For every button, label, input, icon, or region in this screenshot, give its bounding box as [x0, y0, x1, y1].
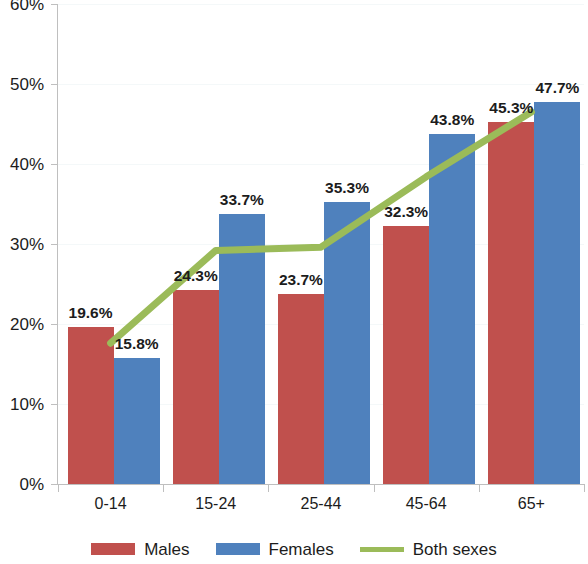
legend-label: Females	[269, 541, 334, 558]
y-axis-tick	[51, 484, 58, 485]
x-axis-tick-label: 65+	[479, 496, 584, 512]
x-axis-tick-label: 0-14	[58, 496, 163, 512]
bar-value-label: 24.3%	[165, 268, 227, 284]
y-axis-tick-label: 10%	[10, 396, 44, 413]
bar-value-label: 43.8%	[421, 112, 483, 128]
bar-value-label: 47.7%	[526, 80, 588, 96]
y-axis-tick	[51, 244, 58, 245]
chart-legend: MalesFemalesBoth sexes	[0, 534, 588, 564]
y-axis-tick	[51, 4, 58, 5]
y-axis-tick-label: 50%	[10, 76, 44, 93]
bar-value-label: 45.3%	[480, 100, 542, 116]
bar-females-0-14	[114, 358, 160, 484]
y-axis-tick	[51, 404, 58, 405]
plot-area	[58, 4, 584, 484]
bar-males-25-44	[278, 294, 324, 484]
legend-label: Males	[144, 541, 189, 558]
y-axis-tick	[51, 324, 58, 325]
legend-swatch-icon	[91, 543, 135, 555]
y-axis-tick-label: 30%	[10, 236, 44, 253]
x-axis-tick	[268, 485, 269, 492]
grouped-bar-chart: 0%10%20%30%40%50%60% 0-1415-2425-4445-64…	[0, 0, 588, 564]
bar-value-label: 33.7%	[211, 192, 273, 208]
x-axis-tick-label: 45-64	[374, 496, 479, 512]
x-axis-tick-label: 15-24	[163, 496, 268, 512]
y-axis-tick-label: 40%	[10, 156, 44, 173]
bar-males-15-24	[173, 290, 219, 484]
bar-females-15-24	[219, 214, 265, 484]
y-axis-tick	[51, 164, 58, 165]
y-axis-tick-label: 0%	[19, 476, 44, 493]
legend-item-both-sexes[interactable]: Both sexes	[360, 541, 497, 558]
legend-label: Both sexes	[413, 541, 497, 558]
x-axis-tick	[58, 485, 59, 492]
bar-value-label: 23.7%	[270, 272, 332, 288]
legend-item-females[interactable]: Females	[216, 541, 334, 558]
x-axis-tick	[163, 485, 164, 492]
x-axis-tick-label: 25-44	[268, 496, 373, 512]
bar-males-45-64	[383, 226, 429, 484]
bar-value-label: 19.6%	[60, 305, 122, 321]
bar-value-label: 15.8%	[106, 336, 168, 352]
bar-females-25-44	[324, 202, 370, 484]
y-axis-tick	[51, 84, 58, 85]
x-axis-tick	[479, 485, 480, 492]
x-axis-line	[58, 484, 585, 485]
bar-females-65+	[534, 102, 580, 484]
legend-item-males[interactable]: Males	[91, 541, 189, 558]
bar-females-45-64	[429, 134, 475, 484]
y-axis-tick-label: 20%	[10, 316, 44, 333]
legend-swatch-icon	[360, 547, 404, 552]
bar-males-65+	[488, 122, 534, 484]
bar-value-label: 35.3%	[316, 180, 378, 196]
x-axis-tick	[374, 485, 375, 492]
bar-value-label: 32.3%	[375, 204, 437, 220]
x-axis-tick	[584, 485, 585, 492]
y-axis-tick-label: 60%	[10, 0, 44, 13]
legend-swatch-icon	[216, 543, 260, 555]
